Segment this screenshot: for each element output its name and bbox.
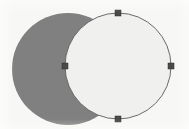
shape-vector-layer (0, 0, 189, 129)
selected-outline-circle[interactable] (65, 13, 171, 119)
resize-handle-right[interactable] (168, 63, 174, 69)
shape-canvas[interactable] (0, 0, 189, 129)
resize-handle-left[interactable] (62, 63, 68, 69)
resize-handle-bottom[interactable] (115, 116, 121, 122)
resize-handle-top[interactable] (115, 10, 121, 16)
